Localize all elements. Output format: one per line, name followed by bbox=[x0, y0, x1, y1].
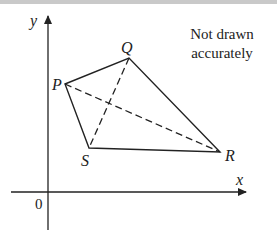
vertex-s-label: S bbox=[81, 152, 89, 169]
diagonal-pr bbox=[65, 84, 220, 152]
x-axis-label: x bbox=[235, 171, 243, 188]
vertex-r-label: R bbox=[224, 147, 235, 164]
origin-label: 0 bbox=[35, 196, 43, 212]
vertex-p-label: P bbox=[51, 76, 62, 93]
note-line-2: accurately bbox=[191, 45, 253, 61]
vertex-q-label: Q bbox=[121, 39, 133, 56]
quadrilateral-diagram: y x 0 P Q R S Not drawn accurately bbox=[0, 0, 277, 243]
y-axis-label: y bbox=[28, 12, 38, 30]
note-line-1: Not drawn bbox=[190, 26, 254, 42]
quadrilateral-pqrs bbox=[65, 58, 220, 152]
